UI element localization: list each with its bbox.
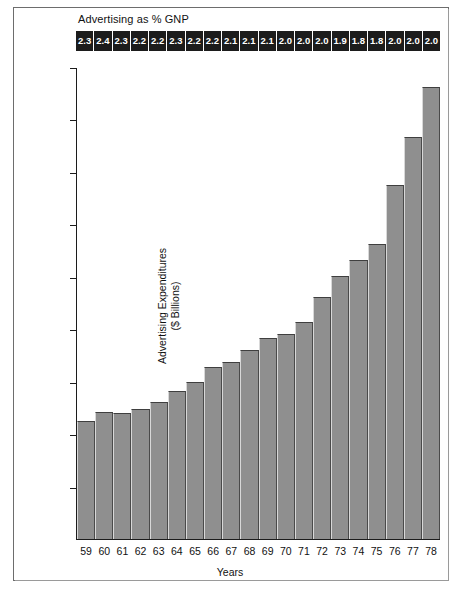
gnp-cell: 2.3 bbox=[113, 31, 131, 51]
bar-slot bbox=[113, 68, 131, 539]
bar-61 bbox=[113, 413, 131, 539]
bar-slot bbox=[277, 68, 295, 539]
bar-slot bbox=[222, 68, 240, 539]
gnp-cell: 1.8 bbox=[368, 31, 386, 51]
gnp-cell: 2.0 bbox=[295, 31, 313, 51]
y-axis-tick bbox=[70, 330, 76, 331]
bar-74 bbox=[349, 260, 367, 539]
bar-71 bbox=[295, 322, 313, 539]
x-axis-tick-label: 59 bbox=[77, 545, 95, 557]
bar-77 bbox=[404, 137, 422, 539]
x-axis-tick-label: 63 bbox=[150, 545, 168, 557]
x-axis-tick-label: 67 bbox=[222, 545, 240, 557]
bar-69 bbox=[259, 338, 277, 539]
gnp-cell: 2.3 bbox=[76, 31, 94, 51]
bar-66 bbox=[204, 367, 222, 539]
y-axis-tick bbox=[70, 278, 76, 279]
bar-slot bbox=[349, 68, 367, 539]
x-axis-tick-label: 70 bbox=[277, 545, 295, 557]
bar-78 bbox=[422, 87, 440, 539]
bar-slot bbox=[186, 68, 204, 539]
bar-slot bbox=[131, 68, 149, 539]
x-axis-tick-label: 60 bbox=[95, 545, 113, 557]
bar-slot bbox=[368, 68, 386, 539]
bar-slot bbox=[77, 68, 95, 539]
plot-area: 51015202530354045 Advertising Expenditur… bbox=[76, 68, 440, 540]
gnp-cell: 2.0 bbox=[386, 31, 404, 51]
y-axis-tick bbox=[70, 488, 76, 489]
gnp-cell: 1.8 bbox=[350, 31, 368, 51]
gnp-cell: 2.2 bbox=[131, 31, 149, 51]
gnp-cell: 2.0 bbox=[313, 31, 331, 51]
gnp-cell: 2.1 bbox=[222, 31, 240, 51]
x-axis-tick-label: 75 bbox=[368, 545, 386, 557]
x-axis-tick-label: 76 bbox=[386, 545, 404, 557]
gnp-cell: 2.3 bbox=[167, 31, 185, 51]
gnp-cell: 2.2 bbox=[186, 31, 204, 51]
y-axis-tick bbox=[70, 68, 76, 69]
x-axis-tick-label: 62 bbox=[131, 545, 149, 557]
y-axis-tick bbox=[70, 383, 76, 384]
x-axis-tick-label: 77 bbox=[404, 545, 422, 557]
bar-slot bbox=[204, 68, 222, 539]
y-axis-tick bbox=[70, 435, 76, 436]
bar-59 bbox=[77, 421, 95, 539]
bar-64 bbox=[168, 391, 186, 539]
gnp-cell: 2.1 bbox=[240, 31, 258, 51]
x-axis-tick-label: 65 bbox=[186, 545, 204, 557]
bar-62 bbox=[131, 409, 149, 539]
x-axis-tick-label: 66 bbox=[204, 545, 222, 557]
bar-slot bbox=[259, 68, 277, 539]
y-axis-tick bbox=[70, 120, 76, 121]
bar-slot bbox=[95, 68, 113, 539]
gnp-cell: 2.0 bbox=[405, 31, 423, 51]
bar-series bbox=[77, 68, 440, 539]
bar-63 bbox=[150, 402, 168, 539]
gnp-cell: 1.9 bbox=[332, 31, 350, 51]
y-axis-tick bbox=[70, 225, 76, 226]
y-axis-title: Advertising Expenditures ($ Billions) bbox=[156, 206, 182, 406]
gnp-percentage-band: 2.32.42.32.22.22.32.22.22.12.12.12.02.02… bbox=[76, 31, 440, 51]
gnp-cell: 2.2 bbox=[204, 31, 222, 51]
gnp-cell: 2.0 bbox=[277, 31, 295, 51]
bar-70 bbox=[277, 334, 295, 539]
bar-slot bbox=[422, 68, 440, 539]
bar-75 bbox=[368, 244, 386, 539]
bar-slot bbox=[331, 68, 349, 539]
x-axis-tick-labels: 5960616263646566676869707172737475767778 bbox=[77, 545, 440, 557]
x-axis-tick-label: 72 bbox=[313, 545, 331, 557]
x-axis-tick-label: 71 bbox=[295, 545, 313, 557]
x-axis-line bbox=[76, 539, 440, 540]
bar-slot bbox=[295, 68, 313, 539]
bar-slot bbox=[386, 68, 404, 539]
gnp-band-caption: Advertising as % GNP bbox=[78, 13, 189, 25]
x-axis-tick-label: 68 bbox=[240, 545, 258, 557]
x-axis-tick-label: 78 bbox=[422, 545, 440, 557]
y-axis-title-line-1: Advertising Expenditures bbox=[156, 206, 169, 406]
x-axis-tick-label: 61 bbox=[113, 545, 131, 557]
bar-65 bbox=[186, 382, 204, 539]
y-axis-title-line-2: ($ Billions) bbox=[169, 206, 182, 406]
gnp-cell: 2.2 bbox=[149, 31, 167, 51]
x-axis-tick-label: 74 bbox=[349, 545, 367, 557]
x-axis-tick-label: 73 bbox=[331, 545, 349, 557]
bar-slot bbox=[404, 68, 422, 539]
gnp-cell: 2.1 bbox=[259, 31, 277, 51]
x-axis-tick-label: 69 bbox=[259, 545, 277, 557]
bar-slot bbox=[313, 68, 331, 539]
bar-73 bbox=[331, 276, 349, 539]
bar-72 bbox=[313, 297, 331, 539]
gnp-cell: 2.4 bbox=[94, 31, 112, 51]
bar-67 bbox=[222, 362, 240, 539]
y-axis-tick bbox=[70, 173, 76, 174]
gnp-cell: 2.0 bbox=[423, 31, 440, 51]
bar-slot bbox=[240, 68, 258, 539]
bar-76 bbox=[386, 185, 404, 539]
x-axis-tick-label: 64 bbox=[168, 545, 186, 557]
bar-60 bbox=[95, 412, 113, 539]
bar-68 bbox=[240, 350, 258, 539]
chart-page: Advertising as % GNP 2.32.42.32.22.22.32… bbox=[0, 0, 460, 596]
x-axis-title: Years bbox=[0, 566, 460, 578]
